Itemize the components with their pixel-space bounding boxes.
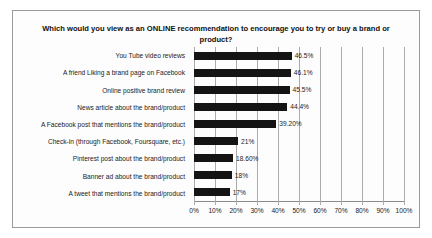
bar <box>194 120 276 128</box>
chart-title: Which would you view as an ONLINE recomm… <box>40 23 392 45</box>
x-tick-label: 60% <box>313 207 326 214</box>
x-tick-label: 70% <box>334 207 347 214</box>
bar-row: 21% <box>194 133 404 150</box>
bar-row: 18.60% <box>194 150 404 167</box>
category-label: A Facebook post that mentions the brand/… <box>17 116 190 133</box>
bar-row: 17% <box>194 184 404 201</box>
screenshot-stage: Which would you view as an ONLINE recomm… <box>0 0 432 238</box>
gridline <box>404 47 405 205</box>
bar-value-label: 18% <box>235 172 248 179</box>
bar <box>194 171 232 179</box>
bar-row: 45.5% <box>194 81 404 98</box>
x-tick-label: 100% <box>396 207 413 214</box>
category-label: Check-in (through Facebook, Foursquare, … <box>17 133 190 150</box>
bar-row: 46.5% <box>194 47 404 64</box>
x-axis: 0%10%20%30%40%50%60%70%80%90%100% <box>194 207 404 219</box>
bar-value-label: 44.4% <box>290 103 309 110</box>
bar-value-label: 46.1% <box>294 69 313 76</box>
bar-row: 18% <box>194 167 404 184</box>
bar-row: 46.1% <box>194 64 404 81</box>
bar <box>194 188 230 196</box>
category-axis: You Tube video reviewsA friend Liking a … <box>17 47 190 202</box>
category-label: Online positive brand review <box>17 81 190 98</box>
category-label: Banner ad about the brand/product <box>17 168 190 185</box>
bar <box>194 154 233 162</box>
bar-value-label: 21% <box>241 138 254 145</box>
category-label: You Tube video reviews <box>17 47 190 64</box>
category-label: News article about the brand/product <box>17 99 190 116</box>
bar <box>194 69 291 77</box>
x-tick-label: 30% <box>250 207 263 214</box>
bar-rows: 46.5%46.1%45.5%44.4%39.20%21%18.60%18%17… <box>194 47 404 201</box>
bar-value-label: 18.60% <box>236 155 258 162</box>
bar <box>194 86 290 94</box>
category-label: A friend Liking a brand page on Facebook <box>17 64 190 81</box>
category-label: A tweet that mentions the brand/product <box>17 185 190 202</box>
plot-area: 46.5%46.1%45.5%44.4%39.20%21%18.60%18%17… <box>194 47 404 202</box>
x-tick-label: 80% <box>355 207 368 214</box>
x-tick-label: 50% <box>292 207 305 214</box>
bar-value-label: 45.5% <box>293 86 312 93</box>
category-label: Pinterest post about the brand/product <box>17 150 190 167</box>
x-tick-label: 20% <box>229 207 242 214</box>
bar-value-label: 46.5% <box>295 52 314 59</box>
x-tick-label: 0% <box>189 207 199 214</box>
bar <box>194 137 238 145</box>
x-tick-label: 40% <box>271 207 284 214</box>
bar-row: 39.20% <box>194 115 404 132</box>
chart-frame: Which would you view as an ONLINE recomm… <box>12 10 420 228</box>
x-tick-label: 90% <box>376 207 389 214</box>
x-tick-label: 10% <box>208 207 221 214</box>
bar <box>194 103 287 111</box>
bar-row: 44.4% <box>194 98 404 115</box>
bar <box>194 52 292 60</box>
bar-value-label: 17% <box>233 189 246 196</box>
bar-value-label: 39.20% <box>279 120 301 127</box>
